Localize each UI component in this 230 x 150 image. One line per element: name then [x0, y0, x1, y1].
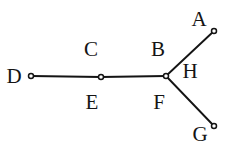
node-d	[29, 74, 34, 79]
label-d: D	[6, 66, 21, 87]
edge-middle-to-junction	[101, 76, 166, 77]
node-g	[212, 124, 217, 129]
label-a: A	[191, 9, 206, 30]
node-middle-cde	[99, 75, 104, 80]
label-f: F	[153, 92, 165, 113]
node-a	[212, 29, 217, 34]
label-c: C	[84, 39, 98, 60]
label-e: E	[86, 92, 99, 113]
label-g: G	[192, 124, 207, 145]
label-b: B	[151, 39, 165, 60]
label-h: H	[182, 61, 197, 82]
tree-diagram-figure: A B C D E F G H	[0, 0, 230, 150]
edge-d-to-middle	[31, 76, 101, 77]
node-junction-bfh	[164, 74, 169, 79]
edge-junction-to-g	[166, 76, 214, 126]
